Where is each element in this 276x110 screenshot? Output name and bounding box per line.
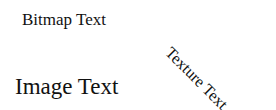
bitmap-text-label: Bitmap Text — [22, 10, 106, 30]
image-text-label: Image Text — [15, 73, 118, 101]
texture-text-label: Texture Text — [162, 44, 232, 110]
